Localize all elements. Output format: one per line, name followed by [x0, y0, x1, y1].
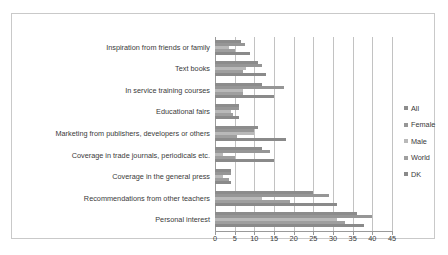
- legend-item-dk[interactable]: DK: [404, 166, 448, 183]
- x-tick-label: 45: [383, 234, 401, 243]
- bar-dk-7: [215, 203, 337, 206]
- chart-legend: AllFemaleMaleWorldDK: [404, 100, 448, 183]
- category-label: Inspiration from friends or family: [106, 43, 210, 52]
- category-label: Coverage in trade journals, periodicals …: [72, 151, 210, 160]
- category-label: In service training courses: [125, 86, 210, 95]
- x-tick-label: 30: [324, 234, 342, 243]
- legend-item-world[interactable]: World: [404, 150, 448, 167]
- legend-label: Female: [411, 120, 435, 129]
- bar-dk-3: [215, 116, 239, 119]
- legend-swatch-icon: [404, 123, 408, 127]
- category-label: Educational fairs: [156, 107, 210, 116]
- x-tick-label: 20: [285, 234, 303, 243]
- gridline-35: [353, 37, 354, 231]
- gridline-45: [392, 37, 393, 231]
- chart-frame: Inspiration from friends or familyText b…: [11, 13, 435, 239]
- legend-item-female[interactable]: Female: [404, 117, 448, 134]
- x-tick-label: 35: [344, 234, 362, 243]
- bar-dk-4: [215, 138, 286, 141]
- plot-area: [215, 37, 392, 231]
- legend-label: World: [411, 153, 430, 162]
- category-label: Coverage in the general press: [112, 172, 210, 181]
- x-tick-label: 10: [245, 234, 263, 243]
- bar-dk-1: [215, 73, 266, 76]
- legend-swatch-icon: [404, 139, 408, 143]
- legend-item-all[interactable]: All: [404, 100, 448, 117]
- legend-swatch-icon: [404, 172, 408, 176]
- bar-dk-2: [215, 95, 274, 98]
- bar-dk-8: [215, 224, 364, 227]
- bar-dk-6: [215, 181, 231, 184]
- category-label: Text books: [175, 64, 210, 73]
- bar-dk-5: [215, 159, 274, 162]
- x-tick-label: 5: [226, 234, 244, 243]
- legend-label: Male: [411, 137, 427, 146]
- x-tick-label: 0: [206, 234, 224, 243]
- category-label: Personal interest: [155, 215, 210, 224]
- x-tick-label: 15: [265, 234, 283, 243]
- gridline-40: [372, 37, 373, 231]
- legend-label: All: [411, 104, 419, 113]
- category-label: Marketing from publishers, developers or…: [55, 129, 210, 138]
- category-label: Recommendations from other teachers: [84, 194, 210, 203]
- bar-female-5: [215, 150, 270, 153]
- legend-item-male[interactable]: Male: [404, 133, 448, 150]
- category-axis-labels: Inspiration from friends or familyText b…: [32, 37, 210, 231]
- legend-swatch-icon: [404, 156, 408, 160]
- x-axis-baseline: [215, 231, 393, 232]
- legend-label: DK: [411, 170, 421, 179]
- x-tick-label: 40: [363, 234, 381, 243]
- bar-dk-0: [215, 52, 250, 55]
- x-tick-label: 25: [304, 234, 322, 243]
- legend-swatch-icon: [404, 106, 408, 110]
